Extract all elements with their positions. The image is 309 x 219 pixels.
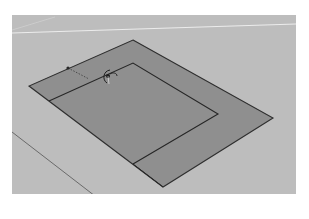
axis-line xyxy=(12,132,95,194)
outer-face[interactable] xyxy=(29,40,273,187)
figure-caption xyxy=(0,204,309,216)
modeling-viewport[interactable] xyxy=(12,15,296,194)
ground-line xyxy=(12,24,296,33)
inference-point xyxy=(66,66,69,69)
ground-line-faint xyxy=(12,17,55,30)
header-caption xyxy=(0,0,309,10)
